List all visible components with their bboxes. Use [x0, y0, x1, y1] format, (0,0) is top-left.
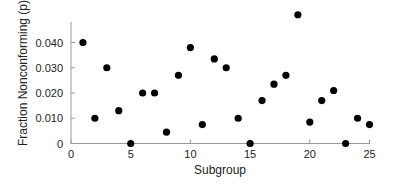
y-ticks: 00.0100.0200.0300.040: [35, 37, 75, 150]
data-point: [163, 129, 170, 136]
data-point: [306, 118, 313, 125]
x-tick-label: 10: [184, 148, 196, 160]
scatter-chart: 0510152025 00.0100.0200.0300.040 Subgrou…: [0, 0, 393, 188]
data-point: [127, 140, 134, 147]
data-point: [175, 72, 182, 79]
data-point: [330, 87, 337, 94]
x-tick-label: 5: [128, 148, 134, 160]
y-tick-label: 0.030: [35, 62, 63, 74]
data-point: [247, 140, 254, 147]
data-point: [223, 64, 230, 71]
y-tick-label: 0.010: [35, 112, 63, 124]
data-point: [258, 97, 265, 104]
data-point: [103, 64, 110, 71]
data-point: [270, 81, 277, 88]
x-tick-label: 0: [68, 148, 74, 160]
data-point: [211, 55, 218, 62]
x-axis-label: Subgroup: [194, 163, 246, 177]
data-point: [91, 115, 98, 122]
y-axis-label: Fraction Nonconforming (p): [16, 0, 30, 146]
data-point: [235, 115, 242, 122]
data-point: [199, 121, 206, 128]
data-point: [151, 89, 158, 96]
x-tick-label: 15: [244, 148, 256, 160]
y-tick-label: 0.040: [35, 37, 63, 49]
x-ticks: 0510152025: [68, 140, 376, 160]
y-tick-label: 0.020: [35, 87, 63, 99]
data-point: [139, 89, 146, 96]
x-tick-label: 25: [363, 148, 375, 160]
data-points: [79, 11, 373, 147]
data-point: [366, 121, 373, 128]
data-point: [354, 115, 361, 122]
x-tick-label: 20: [304, 148, 316, 160]
data-point: [342, 140, 349, 147]
data-point: [294, 11, 301, 18]
data-point: [282, 72, 289, 79]
data-point: [79, 39, 86, 46]
data-point: [318, 97, 325, 104]
y-tick-label: 0: [57, 138, 63, 150]
data-point: [187, 44, 194, 51]
data-point: [115, 107, 122, 114]
